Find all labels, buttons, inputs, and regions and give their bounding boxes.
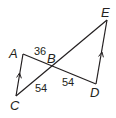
segment-ad: [23, 54, 96, 84]
measure-bc: 54: [35, 82, 47, 94]
vertex-label-c: C: [10, 98, 20, 113]
figure-canvas: A B C D E 36 54 54: [0, 0, 116, 118]
vertex-label-e: E: [101, 5, 110, 20]
vertex-label-b: B: [47, 51, 56, 66]
measure-ab: 36: [34, 45, 46, 57]
measure-bd: 54: [62, 76, 74, 88]
geometry-diagram: A B C D E 36 54 54: [0, 0, 116, 118]
vertex-label-d: D: [90, 85, 99, 100]
vertex-label-a: A: [8, 46, 18, 61]
